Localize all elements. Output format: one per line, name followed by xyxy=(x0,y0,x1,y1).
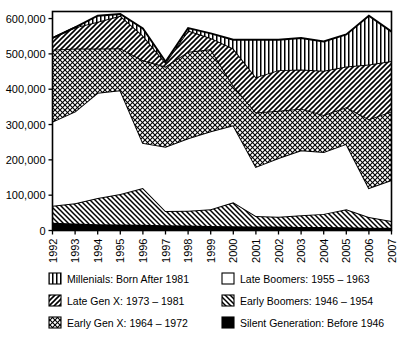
legend-swatch xyxy=(222,317,234,328)
legend-item: Early Boomers: 1946 – 1954 xyxy=(222,295,373,307)
x-tick-label: 1999 xyxy=(205,239,217,263)
x-tick-label: 1994 xyxy=(92,239,104,263)
legend-swatch xyxy=(222,295,234,306)
legend-swatch xyxy=(49,273,61,284)
legend-item: Early Gen X: 1964 – 1972 xyxy=(49,317,188,329)
chart-legend: Millenials: Born After 1981Late Boomers:… xyxy=(49,273,384,329)
x-tick-label: 2001 xyxy=(250,239,262,263)
legend-label: Silent Generation: Before 1946 xyxy=(240,317,384,329)
series-layer xyxy=(53,14,392,231)
legend-item: Millenials: Born After 1981 xyxy=(49,273,189,285)
y-tick-label: 500,000 xyxy=(6,48,46,60)
x-tick-label: 2002 xyxy=(273,239,285,263)
legend-item: Silent Generation: Before 1946 xyxy=(222,317,384,329)
y-tick-label: 600,000 xyxy=(6,13,46,25)
x-axis: 1992199319941995199619971998199920002001… xyxy=(47,231,398,263)
x-tick-label: 1997 xyxy=(160,239,172,263)
y-tick-label: 100,000 xyxy=(6,189,46,201)
x-tick-label: 2003 xyxy=(295,239,307,263)
legend-label: Late Boomers: 1955 – 1963 xyxy=(240,273,370,285)
legend-label: Millenials: Born After 1981 xyxy=(67,273,189,285)
x-tick-label: 2007 xyxy=(386,239,398,263)
legend-swatch xyxy=(49,295,61,306)
y-tick-label: 200,000 xyxy=(6,154,46,166)
x-tick-label: 2000 xyxy=(227,239,239,263)
y-tick-label: 300,000 xyxy=(6,119,46,131)
y-axis: 0100,000200,000300,000400,000500,000600,… xyxy=(6,13,53,237)
y-tick-label: 400,000 xyxy=(6,83,46,95)
legend-label: Early Boomers: 1946 – 1954 xyxy=(240,295,373,307)
legend-swatch xyxy=(222,273,234,284)
chart-page: 0100,000200,000300,000400,000500,000600,… xyxy=(0,0,404,350)
stacked-area-chart: 0100,000200,000300,000400,000500,000600,… xyxy=(0,0,404,350)
legend-item: Late Boomers: 1955 – 1963 xyxy=(222,273,370,285)
legend-label: Early Gen X: 1964 – 1972 xyxy=(67,317,188,329)
x-tick-label: 1998 xyxy=(182,239,194,263)
legend-item: Late Gen X: 1973 – 1981 xyxy=(49,295,185,307)
x-tick-label: 1996 xyxy=(137,239,149,263)
x-tick-label: 2005 xyxy=(340,239,352,263)
y-tick-label: 0 xyxy=(39,225,45,237)
legend-label: Late Gen X: 1973 – 1981 xyxy=(67,295,185,307)
x-tick-label: 1993 xyxy=(69,239,81,263)
x-tick-label: 1995 xyxy=(114,239,126,263)
x-tick-label: 1992 xyxy=(47,239,59,263)
x-tick-label: 2006 xyxy=(363,239,375,263)
x-tick-label: 2004 xyxy=(318,239,330,263)
legend-swatch xyxy=(49,317,61,328)
